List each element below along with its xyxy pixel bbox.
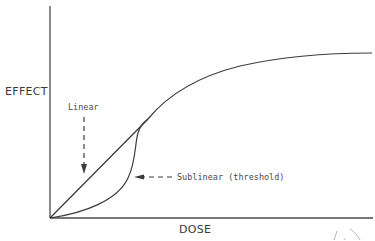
linear-annotation: Linear	[68, 103, 99, 112]
faint-scribble-mark	[334, 231, 337, 240]
faint-scribble-mark-2	[344, 238, 345, 240]
dose-response-diagram	[0, 0, 375, 241]
linear-line	[50, 119, 148, 218]
sublinear-annotation: Sublinear (threshold)	[177, 173, 284, 182]
sublinear-arrowhead-icon	[134, 175, 144, 180]
linear-arrowhead-icon	[81, 164, 87, 174]
y-axis-label: EFFECT	[5, 86, 48, 97]
saturating-curve	[148, 53, 372, 119]
faint-scribble-mark-3	[350, 229, 360, 240]
x-axis-label: DOSE	[179, 224, 211, 235]
